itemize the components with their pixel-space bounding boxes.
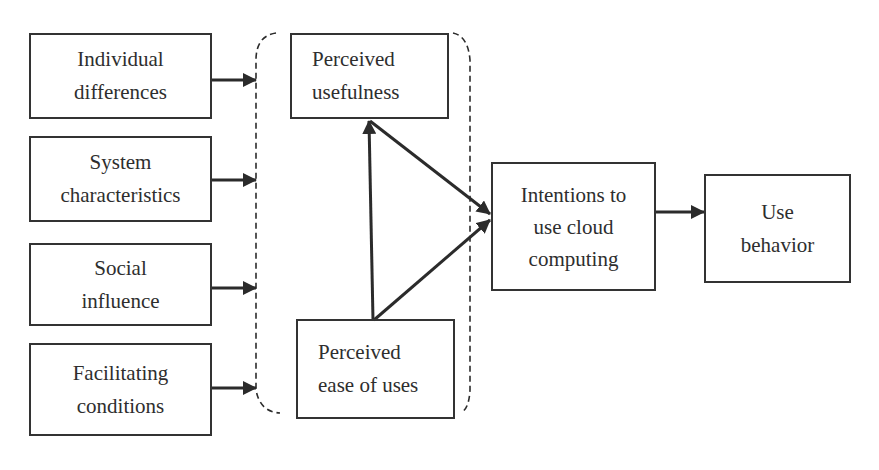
node-facilitating-conditions: Facilitating conditions bbox=[29, 343, 212, 436]
node-label-line: Perceived bbox=[318, 336, 401, 369]
node-label-line: Perceived bbox=[312, 43, 395, 76]
arrow-usefulness-to-intentions bbox=[370, 121, 490, 214]
node-label-line: conditions bbox=[77, 390, 165, 423]
node-system-characteristics: System characteristics bbox=[29, 136, 212, 222]
node-individual-differences: Individual differences bbox=[29, 33, 212, 119]
node-label-line: System bbox=[90, 146, 152, 179]
arrow-ease-to-intentions bbox=[374, 220, 490, 320]
node-label-line: Use bbox=[761, 196, 794, 229]
node-label-line: Individual bbox=[77, 43, 163, 76]
node-label-line: characteristics bbox=[60, 179, 180, 212]
node-label-line: ease of uses bbox=[318, 369, 418, 402]
node-perceived-usefulness: Perceived usefulness bbox=[290, 33, 449, 119]
node-label-line: computing bbox=[529, 243, 619, 275]
node-label-line: use cloud bbox=[534, 211, 614, 243]
node-use-behavior: Use behavior bbox=[704, 174, 851, 283]
diagram-canvas: Individual differences System characteri… bbox=[0, 0, 879, 470]
node-perceived-ease-of-uses: Perceived ease of uses bbox=[296, 319, 455, 419]
node-label-line: influence bbox=[81, 285, 159, 318]
node-label-line: Intentions to bbox=[521, 179, 627, 211]
node-label-line: differences bbox=[74, 76, 167, 109]
node-label-line: usefulness bbox=[312, 76, 400, 109]
node-intentions-to-use-cloud-computing: Intentions to use cloud computing bbox=[491, 162, 656, 291]
node-label-line: Facilitating bbox=[73, 357, 169, 390]
arrow-ease-to-usefulness bbox=[369, 121, 373, 320]
node-label-line: behavior bbox=[741, 229, 814, 262]
node-social-influence: Social influence bbox=[29, 243, 212, 326]
node-label-line: Social bbox=[94, 252, 147, 285]
